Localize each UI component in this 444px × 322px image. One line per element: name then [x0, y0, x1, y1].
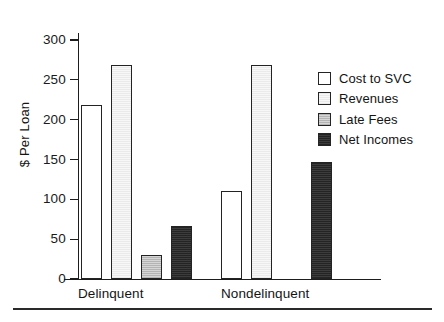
y-tick-300	[70, 39, 79, 40]
legend-swatch-late-fees-icon	[318, 113, 331, 126]
legend-swatch-cost-to-svc-icon	[318, 72, 331, 85]
chart-page: ___ ____ ___ ____ __ 050100150200250300 …	[0, 0, 444, 322]
legend-item-revenues[interactable]: Revenues	[318, 89, 413, 110]
y-tick-200	[70, 119, 79, 120]
y-tick-label-100: 100	[22, 192, 66, 206]
y-axis-title: $ Per Loan	[17, 80, 32, 190]
x-label-nondelinquent: Nondelinquent	[221, 286, 309, 301]
y-tick-0	[70, 278, 79, 279]
legend-label-revenues: Revenues	[339, 91, 398, 106]
bar-delinquent-cost-to-svc	[81, 105, 102, 279]
chart-legend: Cost to SVCRevenuesLate FeesNet Incomes	[318, 68, 413, 150]
bar-nondelinquent-cost-to-svc	[221, 191, 242, 279]
y-tick-label-0: 0	[22, 272, 66, 286]
legend-label-cost-to-svc: Cost to SVC	[339, 71, 412, 86]
legend-swatch-net-incomes-icon	[318, 133, 331, 146]
legend-item-net-incomes[interactable]: Net Incomes	[318, 130, 413, 151]
bar-delinquent-revenues	[111, 65, 132, 279]
x-label-delinquent: Delinquent	[78, 286, 144, 301]
y-axis-line	[78, 33, 79, 280]
y-tick-label-50: 50	[22, 232, 66, 246]
y-tick-50	[70, 239, 79, 240]
y-tick-250	[70, 79, 79, 80]
x-axis-line	[64, 279, 381, 280]
bar-chart-plot: 050100150200250300 $ Per Loan Delinquent…	[0, 0, 444, 322]
legend-swatch-revenues-icon	[318, 92, 331, 105]
legend-label-late-fees: Late Fees	[339, 112, 398, 127]
bar-nondelinquent-net-incomes	[311, 162, 332, 279]
bar-delinquent-net-incomes	[171, 226, 192, 279]
bar-nondelinquent-revenues	[251, 65, 272, 279]
bottom-divider-rule	[13, 308, 432, 310]
legend-label-net-incomes: Net Incomes	[339, 132, 413, 147]
y-tick-label-300: 300	[22, 33, 66, 47]
y-tick-150	[70, 159, 79, 160]
bar-delinquent-late-fees	[141, 255, 162, 279]
legend-item-late-fees[interactable]: Late Fees	[318, 109, 413, 130]
y-tick-100	[70, 199, 79, 200]
legend-item-cost-to-svc[interactable]: Cost to SVC	[318, 68, 413, 89]
